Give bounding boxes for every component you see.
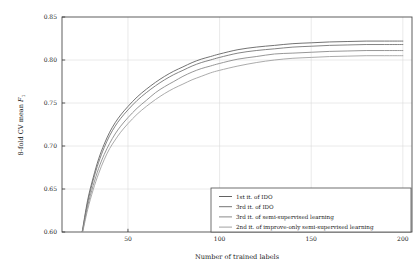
x-tick-label: 150 — [305, 235, 317, 242]
y-tick-label: 0.75 — [44, 99, 58, 106]
x-tick-label: 100 — [214, 235, 226, 242]
y-tick-label: 0.65 — [44, 185, 58, 192]
line-chart: 0.600.650.700.750.800.85 50100150200 Num… — [0, 0, 419, 269]
y-tick-label: 0.60 — [44, 228, 58, 235]
legend-label-3[interactable]: 2nd it. of improve-only semi-supervised … — [236, 224, 374, 231]
legend-label-0[interactable]: 1st it. of IDO — [236, 194, 273, 200]
y-tick-label: 0.85 — [44, 13, 58, 20]
y-axis-label-text: 8-fold CV mean — [17, 102, 25, 156]
x-tick-label: 50 — [124, 235, 132, 242]
legend[interactable]: 1st it. of IDO3rd it. of IDO3rd it. of s… — [211, 188, 411, 232]
legend-label-1[interactable]: 3rd it. of IDO — [236, 204, 274, 210]
y-tick-label: 0.70 — [44, 142, 58, 149]
y-axis-label-subscript: 1 — [21, 94, 26, 97]
x-tick-label: 200 — [397, 235, 409, 242]
y-axis-label: 8-fold CV mean F1 — [17, 94, 26, 155]
legend-label-2[interactable]: 3rd it. of semi-supervised learning — [236, 214, 334, 221]
x-axis-label: Number of trained labels — [195, 253, 280, 261]
y-tick-label: 0.80 — [44, 56, 58, 63]
